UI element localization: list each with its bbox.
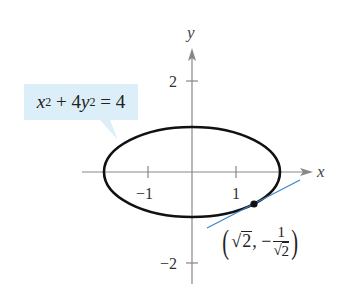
- point-label: ( √ 2 , − 1 √ 2 ): [220, 224, 300, 259]
- x-tick-label-1: 1: [232, 185, 240, 202]
- label-pointer: [100, 120, 118, 140]
- x-axis-label: x: [316, 162, 325, 181]
- eq-y: y: [81, 91, 89, 113]
- equation-label: x2 + 4y2 = 4: [24, 84, 138, 120]
- close-paren: ): [291, 225, 298, 259]
- y-tick-label-2: 2: [169, 73, 177, 90]
- radical-icon: √: [231, 231, 241, 252]
- comma-minus: , −: [252, 231, 271, 252]
- radicand: 2: [282, 242, 290, 260]
- radicand: 2: [241, 231, 252, 251]
- y-tick-label-neg2: −2: [160, 255, 177, 272]
- eq-rhs: = 4: [95, 91, 125, 113]
- radical-icon: √: [273, 242, 281, 260]
- y-axis-label: y: [185, 23, 195, 42]
- tangent-point: [250, 200, 257, 207]
- fraction-denominator: √ 2: [273, 241, 289, 260]
- x-tick-label-neg1: −1: [136, 185, 153, 202]
- eq-plus-coef: + 4: [51, 91, 81, 113]
- fraction: 1 √ 2: [273, 224, 289, 259]
- sqrt-2: √ 2: [231, 231, 252, 252]
- fraction-numerator: 1: [277, 224, 285, 241]
- eq-x: x: [37, 91, 45, 113]
- open-paren: (: [222, 225, 229, 259]
